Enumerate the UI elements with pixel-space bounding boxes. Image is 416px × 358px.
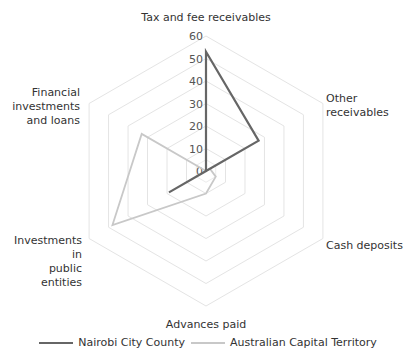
axis-label-advances: Advances paid	[0, 318, 412, 332]
legend-swatch-nairobi	[39, 342, 73, 344]
legend-label-nairobi: Nairobi City County	[78, 336, 185, 349]
legend-label-act: Australian Capital Territory	[230, 336, 377, 349]
legend-item-nairobi[interactable]: Nairobi City County	[39, 336, 185, 349]
legend-swatch-act	[191, 342, 225, 344]
axis-label-fin-line2: investments	[8, 100, 80, 114]
legend-item-act[interactable]: Australian Capital Territory	[191, 336, 377, 349]
tick-label: 60	[189, 30, 203, 43]
axis-label-cash: Cash deposits	[326, 239, 403, 253]
axis-label-other: Other receivables	[326, 92, 416, 120]
legend: Nairobi City County Australian Capital T…	[0, 336, 416, 349]
tick-label: 20	[189, 120, 203, 133]
axis-label-financial: Financial investments and loans	[8, 86, 80, 128]
axis-label-public-line2: public entities	[8, 262, 82, 290]
axis-label-public-line1: Investments in	[8, 234, 82, 262]
axis-label-tax: Tax and fee receivables	[0, 11, 412, 25]
tick-label: 10	[189, 143, 203, 156]
axis-label-public-entities: Investments in public entities	[8, 234, 82, 290]
tick-label: 40	[189, 75, 203, 88]
axis-label-fin-line1: Financial	[8, 86, 80, 100]
tick-label: 30	[189, 98, 203, 111]
tick-label: 50	[189, 53, 203, 66]
axis-label-fin-line3: and loans	[8, 114, 80, 128]
